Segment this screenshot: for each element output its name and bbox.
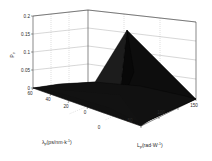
- y-tick-label: 0: [98, 125, 101, 130]
- y-tick-label: 100: [157, 110, 165, 115]
- surface-plot-3d: 0.2 0.15 0.1 0.05 0 60 40 20 0 0 50 100 …: [0, 0, 212, 161]
- x-tick-label: 20: [63, 104, 69, 109]
- x-axis-units: (ps/nm·k: [47, 139, 68, 145]
- y-tick-label: 50: [127, 118, 133, 123]
- x-axis-units-tail: ): [70, 139, 72, 145]
- x-tick-label: 0: [84, 110, 87, 115]
- y-axis-units: (rad·W: [142, 142, 158, 148]
- y-tick-label: 150: [190, 103, 198, 108]
- figure-container: 0.2 0.15 0.1 0.05 0 60 40 20 0 0 50 100 …: [0, 0, 212, 161]
- back-left-wall: [33, 10, 88, 88]
- x-tick-label: 60: [27, 91, 33, 96]
- z-tick-label: 0.2: [24, 14, 31, 19]
- y-axis-units-tail: ): [161, 142, 163, 148]
- x-tick-label: 40: [45, 97, 51, 102]
- z-tick-label: 0.05: [21, 68, 30, 73]
- z-tick-label: 0.15: [21, 32, 30, 37]
- z-tick-label: 0: [27, 86, 30, 91]
- z-tick-label: 0.1: [24, 50, 31, 55]
- z-axis-subscript: o: [12, 52, 16, 54]
